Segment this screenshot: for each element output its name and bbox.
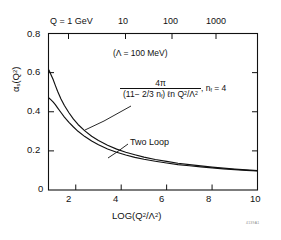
x-tick-label-3: 8 bbox=[206, 194, 211, 204]
formula-numerator: 4π bbox=[120, 79, 201, 88]
y-tick-label-3: 0.2 bbox=[27, 145, 40, 155]
formula-nf-note: , nf = 4 bbox=[201, 83, 226, 93]
lambda-note: (Λ = 100 MeV) bbox=[113, 49, 168, 58]
x-tick-label-1: 4 bbox=[113, 194, 118, 204]
top-axis-label-100: 100 bbox=[163, 17, 178, 26]
top-axis-label-q1gev: Q = 1 GeV bbox=[50, 17, 93, 26]
qcd-running-coupling-figure bbox=[0, 0, 281, 240]
top-axis-label-10: 10 bbox=[118, 17, 128, 26]
formula-denominator: (11− 2/3 nf) ℓn Q2/Λ2 bbox=[120, 88, 201, 99]
top-axis-label-1000: 1000 bbox=[206, 17, 226, 26]
y-axis-title: αs(Q2) bbox=[10, 67, 21, 92]
x-axis-title: LOG(Q2/Λ2) bbox=[112, 211, 161, 221]
figure-id: 4139A1 bbox=[246, 222, 260, 225]
figure-background bbox=[0, 0, 281, 240]
y-tick-label-2: 0.4 bbox=[27, 106, 40, 116]
y-tick-label-4: 0 bbox=[38, 184, 43, 194]
x-tick-label-2: 6 bbox=[159, 194, 164, 204]
y-tick-label-0: 0.8 bbox=[27, 29, 40, 39]
two-loop-label: Two Loop bbox=[130, 138, 169, 147]
y-tick-label-1: 0.6 bbox=[27, 67, 40, 77]
alpha-s-formula: 4π (11− 2/3 nf) ℓn Q2/Λ2 , nf = 4 bbox=[120, 79, 226, 99]
x-tick-label-4: 10 bbox=[250, 194, 261, 204]
formula-fraction: 4π (11− 2/3 nf) ℓn Q2/Λ2 bbox=[120, 79, 201, 99]
x-tick-label-0: 2 bbox=[66, 194, 71, 204]
